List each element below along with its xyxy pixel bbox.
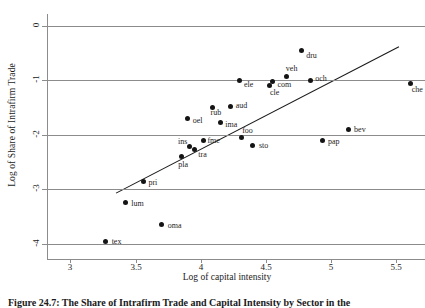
y-tick-label: -2: [31, 124, 41, 144]
gridline-y: [47, 26, 425, 27]
gridline-y: [47, 80, 425, 81]
x-tick-label: 5.5: [381, 262, 411, 272]
data-point-label: lum: [131, 199, 143, 208]
data-point-label: oma: [168, 221, 182, 230]
data-point-label: ele: [244, 80, 253, 89]
data-point[interactable]: [179, 154, 184, 159]
data-point[interactable]: [346, 127, 351, 132]
x-tick-label: 3: [55, 262, 85, 272]
data-point[interactable]: [284, 74, 289, 79]
data-point-label: com: [277, 80, 291, 89]
x-tick-label: 3.5: [121, 262, 151, 272]
data-point[interactable]: [308, 78, 313, 83]
data-point[interactable]: [237, 78, 242, 83]
data-point-label: veh: [286, 64, 298, 73]
figure-caption: Figure 24.7: The Share of Intrafirm Trad…: [8, 297, 418, 308]
data-point[interactable]: [141, 179, 146, 184]
data-point-label: oel: [193, 116, 203, 125]
y-axis-line: [47, 14, 48, 260]
data-point-label: pla: [178, 160, 188, 169]
data-point-label: sto: [259, 141, 268, 150]
figure-container: Log of Share of Intrafirm Trade Log of c…: [0, 0, 425, 308]
data-point[interactable]: [185, 116, 190, 121]
gridline-y: [47, 135, 425, 136]
gridline-y: [47, 189, 425, 190]
x-tick-label: 4.5: [251, 262, 281, 272]
data-point[interactable]: [218, 120, 223, 125]
data-point[interactable]: [250, 143, 255, 148]
data-point[interactable]: [159, 222, 164, 227]
y-tick-label: -1: [31, 69, 41, 89]
x-axis-line: [47, 259, 425, 260]
y-tick-mark: [42, 80, 47, 81]
data-point[interactable]: [228, 104, 233, 109]
data-point[interactable]: [103, 239, 108, 244]
data-point-label: cle: [270, 88, 279, 97]
data-point-label: ins: [178, 137, 187, 146]
y-tick-label: -3: [31, 178, 41, 198]
y-tick-label: 0: [31, 15, 41, 35]
y-tick-mark: [42, 135, 47, 136]
data-point[interactable]: [192, 147, 197, 152]
data-point-label: tex: [112, 237, 122, 246]
data-point-label: rub: [211, 108, 222, 117]
y-tick-label: -4: [31, 233, 41, 253]
x-tick-label: 5: [316, 262, 346, 272]
y-tick-mark: [42, 189, 47, 190]
gridline-y: [47, 244, 425, 245]
data-point-label: dru: [306, 51, 317, 60]
data-point-label: fme: [207, 136, 219, 145]
data-point[interactable]: [320, 138, 325, 143]
data-point[interactable]: [239, 135, 244, 140]
x-tick-label: 4: [186, 262, 216, 272]
plot-area: 0-1-2-3-433.544.555.5druvehochcomcleelec…: [0, 0, 425, 308]
data-point-label: och: [315, 74, 327, 83]
data-point-label: aud: [236, 101, 248, 110]
data-point-label: pri: [148, 178, 157, 187]
data-point[interactable]: [123, 200, 128, 205]
data-point-label: tra: [198, 150, 206, 159]
data-point-label: che: [412, 85, 423, 94]
data-point-label: ima: [225, 120, 237, 129]
data-point-label: pap: [328, 137, 340, 146]
data-point-label: foo: [242, 126, 253, 135]
data-point[interactable]: [299, 48, 304, 53]
y-tick-mark: [42, 26, 47, 27]
data-point[interactable]: [201, 138, 206, 143]
data-point[interactable]: [267, 83, 272, 88]
y-tick-mark: [42, 244, 47, 245]
data-point-label: bev: [354, 125, 366, 134]
